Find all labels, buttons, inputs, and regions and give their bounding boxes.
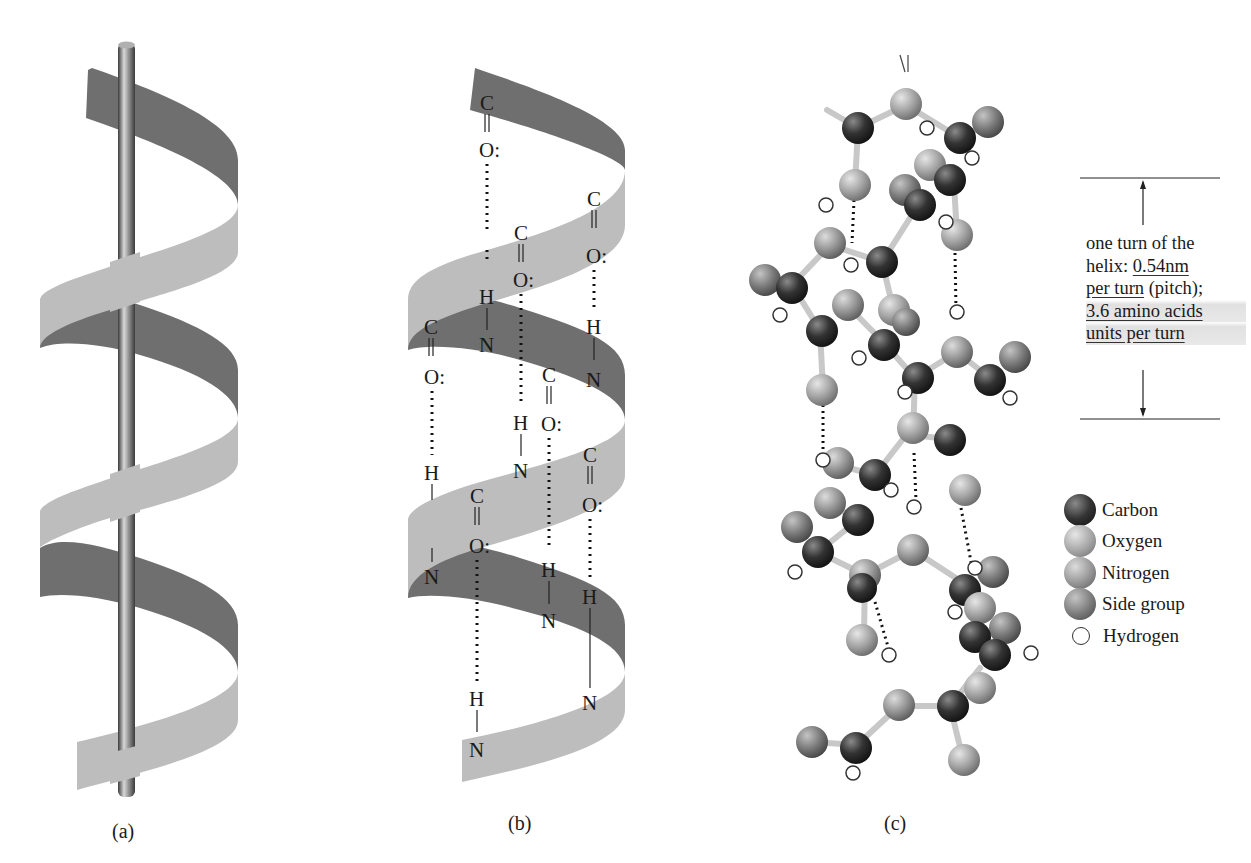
panel-b-helix: C O: H N C O: H N C O: H [408, 68, 625, 782]
carbon-ball-icon [1064, 494, 1096, 526]
nitrogen-ball-icon [1064, 557, 1096, 589]
alpha-helix-figure: C O: H N C O: H N C O: H [0, 0, 1251, 863]
svg-text:N: N [424, 565, 439, 589]
svg-text:H: H [541, 558, 556, 582]
svg-text:C: C [470, 484, 484, 508]
svg-text:H: H [586, 315, 601, 339]
svg-text:O:: O: [479, 138, 500, 162]
caption-c: (c) [884, 812, 906, 835]
svg-text:H: H [582, 585, 597, 609]
atom-legend: Carbon Oxygen Nitrogen Side group Hydrog… [1064, 494, 1185, 652]
svg-text:O:: O: [541, 412, 562, 436]
hydrogen-circle-icon [1072, 627, 1090, 645]
svg-text:O:: O: [469, 534, 490, 558]
ribbon-light-segment [77, 625, 238, 790]
svg-text:O:: O: [582, 493, 603, 517]
svg-text:C: C [424, 315, 438, 339]
rod-top [118, 42, 135, 49]
svg-text:N: N [479, 333, 494, 357]
svg-text:N: N [582, 691, 597, 715]
panel-c-ball-and-stick [749, 55, 1038, 780]
svg-text:O:: O: [424, 365, 445, 389]
central-rod [118, 43, 135, 797]
caption-b: (b) [508, 812, 531, 835]
ribbon-dark-segment [40, 542, 238, 672]
side-group-ball-icon [1064, 588, 1096, 620]
legend-item-hydrogen: Hydrogen [1064, 620, 1185, 652]
legend-item-nitrogen: Nitrogen [1064, 557, 1185, 589]
ribbon-light-segment [462, 625, 625, 782]
svg-text:H: H [424, 461, 439, 485]
atoms [749, 88, 1031, 776]
svg-text:N: N [469, 738, 484, 762]
pitch-annotation: one turn of the helix: 0.54nm per turn (… [1086, 232, 1246, 345]
oxygen-ball-icon [1064, 525, 1096, 557]
ribbon-light-segment [40, 370, 238, 548]
panel-a-helix [40, 42, 238, 798]
svg-text:N: N [513, 459, 528, 483]
legend-item-oxygen: Oxygen [1064, 526, 1185, 558]
caption-a: (a) [112, 820, 134, 843]
ribbon-dark-segment [86, 68, 238, 205]
svg-text:N: N [586, 368, 601, 392]
legend-item-side-group: Side group [1064, 589, 1185, 621]
svg-text:H: H [513, 411, 528, 435]
svg-text:H: H [469, 687, 484, 711]
svg-text:C: C [587, 187, 601, 211]
svg-text:O:: O: [513, 268, 534, 292]
svg-text:O:: O: [586, 244, 607, 268]
svg-text:C: C [480, 91, 494, 115]
svg-text:C: C [583, 443, 597, 467]
svg-text:H: H [479, 285, 494, 309]
svg-text:C: C [514, 221, 528, 245]
svg-text:C: C [542, 363, 556, 387]
svg-text:N: N [541, 609, 556, 633]
legend-item-carbon: Carbon [1064, 494, 1185, 526]
